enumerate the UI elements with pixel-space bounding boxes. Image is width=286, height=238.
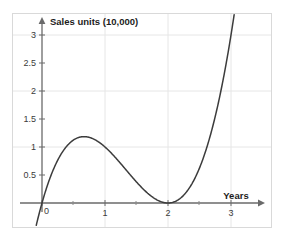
x-axis-title: Years (223, 190, 248, 201)
sales-curve-line (36, 15, 234, 226)
y-tick-label-0-5: 0.5 (23, 170, 36, 180)
y-tick-label-1-5: 1.5 (23, 114, 36, 124)
y-tick-label-1: 1 (31, 142, 36, 152)
y-axis-arrow (39, 17, 46, 24)
chart-figure: 0 1 2 3 0.5 1 1.5 2 2.5 3 Sales units (1… (0, 0, 286, 238)
y-tick-label-3: 3 (31, 30, 36, 40)
y-axis (39, 17, 46, 212)
y-tick-labels: 0.5 1 1.5 2 2.5 3 (23, 30, 36, 180)
sales-curve-chart: 0 1 2 3 0.5 1 1.5 2 2.5 3 Sales units (1… (0, 0, 286, 238)
x-tick-label-2: 2 (165, 208, 170, 218)
x-tick-labels: 0 1 2 3 (44, 206, 234, 218)
x-tick-label-0: 0 (44, 206, 49, 216)
x-axis-arrow (258, 200, 265, 207)
x-tick-label-3: 3 (228, 208, 233, 218)
y-axis-title: Sales units (10,000) (50, 16, 138, 27)
y-tick-label-2: 2 (31, 86, 36, 96)
y-tick-label-2-5: 2.5 (23, 58, 36, 68)
x-tick-label-1: 1 (102, 208, 107, 218)
